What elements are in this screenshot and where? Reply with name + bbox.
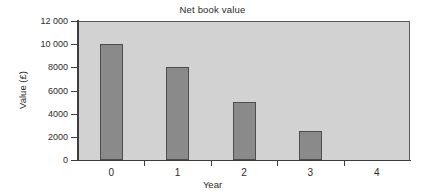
bar (100, 44, 123, 160)
bar (233, 102, 256, 160)
x-axis-title: Year (0, 179, 425, 190)
x-tick-label: 1 (175, 167, 181, 178)
y-tick-label: 6000 (48, 86, 68, 96)
y-tick-label: 8000 (48, 62, 68, 72)
y-tick-mark (71, 91, 77, 92)
x-tick-mark (277, 161, 278, 166)
y-tick-label: 0 (63, 155, 68, 165)
x-tick-mark (144, 161, 145, 166)
bar-chart: Net book value 0200040006000800010 00012… (0, 0, 425, 194)
x-tick-mark (344, 161, 345, 166)
y-tick-mark (71, 67, 77, 68)
y-tick-label: 10 000 (40, 39, 68, 49)
y-tick-mark (71, 21, 77, 22)
y-tick-label: 4000 (48, 109, 68, 119)
y-tick-mark (71, 44, 77, 45)
bar (166, 67, 189, 160)
chart-title: Net book value (0, 4, 425, 15)
x-tick-label: 3 (308, 167, 314, 178)
y-tick-mark (71, 114, 77, 115)
y-tick-label: 2000 (48, 132, 68, 142)
y-tick-label: 12 000 (40, 16, 68, 26)
x-tick-label: 2 (241, 167, 247, 178)
y-axis-line (77, 20, 79, 161)
y-tick-mark (71, 160, 77, 161)
x-tick-mark (211, 161, 212, 166)
x-tick-label: 4 (374, 167, 380, 178)
x-tick-label: 0 (108, 167, 114, 178)
y-tick-mark (71, 137, 77, 138)
y-axis-title: Value (£) (17, 71, 28, 109)
bar (299, 131, 322, 160)
